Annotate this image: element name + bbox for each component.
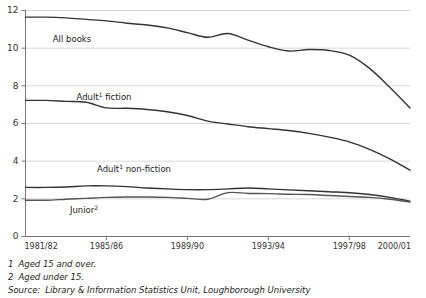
line-chart: 024681012 1981/821985/861989/901993/9419… xyxy=(0,0,426,298)
y-axis-ticks: 024681012 xyxy=(7,5,25,241)
x-tick-label: 1989/90 xyxy=(171,242,204,251)
x-tick-label: 1997/98 xyxy=(333,242,366,251)
series-label: All books xyxy=(53,34,92,44)
series-label: Adult1 fiction xyxy=(77,91,132,102)
series-line xyxy=(26,100,411,170)
x-tick-label: 2000/01 xyxy=(378,242,411,251)
footnote-list: 1Aged 15 and over. 2Aged under 15. Sourc… xyxy=(8,258,418,297)
y-tick-label: 6 xyxy=(13,118,19,128)
chart-container: 024681012 1981/821985/861989/901993/9419… xyxy=(0,0,426,298)
y-tick-label: 12 xyxy=(7,5,18,15)
y-tick-label: 10 xyxy=(7,43,19,53)
x-axis-ticks: 1981/821985/861989/901993/941997/982000/… xyxy=(25,236,412,251)
series-line xyxy=(26,192,411,202)
x-tick-label: 1993/94 xyxy=(252,242,285,251)
footnote-item: 1Aged 15 and over. xyxy=(8,258,418,271)
footnote-number: Source: xyxy=(8,285,40,295)
y-tick-label: 0 xyxy=(13,231,19,241)
footnote-source: Source:Library & Information Statistics … xyxy=(8,284,418,297)
y-tick-label: 4 xyxy=(13,156,19,166)
footnote-text: Aged under 15. xyxy=(18,272,84,282)
series-label: Junior2 xyxy=(69,204,98,215)
footnote-text: Library & Information Statistics Unit, L… xyxy=(45,285,310,295)
y-tick-label: 8 xyxy=(13,81,19,91)
footnote-number: 2 xyxy=(8,272,13,282)
x-tick-label: 1981/82 xyxy=(25,242,58,251)
series-lines xyxy=(26,17,411,202)
footnote-number: 1 xyxy=(8,259,13,269)
footnote-item: 2Aged under 15. xyxy=(8,271,418,284)
series-label: Adult1 non-fiction xyxy=(97,163,171,174)
y-tick-label: 2 xyxy=(13,194,19,204)
footnote-text: Aged 15 and over. xyxy=(18,259,96,269)
x-tick-label: 1985/86 xyxy=(90,242,123,251)
